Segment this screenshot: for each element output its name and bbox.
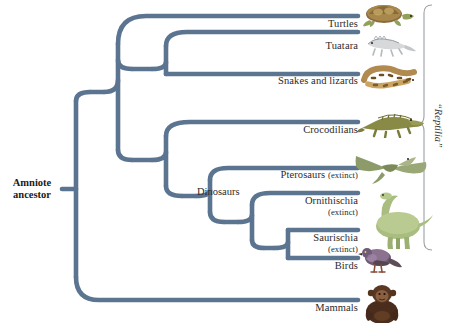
taxon-name-turtles: Turtles: [328, 18, 358, 29]
branch-reptilia-elbow: [104, 80, 118, 92]
taxon-name-crocodilians: Crocodilians: [303, 124, 358, 135]
pigeon-illustration: [356, 244, 404, 278]
root-label-line1: Amniote: [13, 177, 52, 188]
pterosaur-illustration: [352, 148, 430, 188]
snake-illustration: [358, 60, 420, 90]
taxon-name-saurischia: Saurischia: [313, 232, 358, 243]
taxon-name-pterosaurs: Pterosaurs: [281, 169, 326, 180]
figure-caption: [4, 314, 434, 323]
branch-archosaur-elbow: [152, 152, 166, 160]
tuatara-illustration: [360, 32, 418, 58]
taxon-name-mammals: Mammals: [315, 302, 358, 313]
taxon-extinct-note-ornithischia: (extinct): [198, 207, 358, 219]
crocodilian-illustration: [356, 106, 426, 138]
taxon-name-ornithischia: Ornithischia: [305, 195, 358, 206]
taxon-label-ornithischia: Ornithischia (extinct): [198, 195, 358, 218]
taxon-label-turtles: Turtles: [208, 18, 358, 30]
root-label: Amniote ancestor: [4, 177, 60, 200]
taxon-label-mammals: Mammals: [208, 302, 358, 314]
taxon-extinct-note-saurischia: (extinct): [198, 244, 358, 256]
taxon-label-saurischia: Saurischia (extinct): [198, 232, 358, 255]
sauropod-illustration: [352, 190, 434, 250]
taxon-label-snakes-and-lizards: Snakes and lizards: [188, 75, 358, 87]
turtle-illustration: [358, 2, 418, 30]
branch-archosaur-stem: [118, 150, 132, 160]
reptilia-bracket-label: “Reptilia”: [433, 91, 444, 161]
branch-reptile-stem: [76, 92, 90, 101]
branch-lepidosaur-stem: [118, 60, 132, 69]
branch-lepidosaur-elbow: [152, 62, 166, 69]
taxon-extinct-note-pterosaurs: (extinct): [328, 170, 358, 180]
taxon-name-snakes-and-lizards: Snakes and lizards: [278, 75, 358, 86]
root-label-line2: ancestor: [13, 189, 51, 200]
taxon-label-pterosaurs: Pterosaurs (extinct): [198, 169, 358, 182]
taxon-name-birds: Birds: [335, 260, 358, 271]
taxon-name-tuatara: Tuatara: [326, 40, 358, 51]
phylogenetic-tree-figure: Amniote ancestor Dinosaurs Turtles Tuata…: [0, 0, 463, 323]
taxon-label-birds: Birds: [208, 260, 358, 272]
branch-ornithodiran-stem: [166, 186, 182, 196]
taxon-label-tuatara: Tuatara: [208, 40, 358, 52]
taxon-label-crocodilians: Crocodilians: [208, 124, 358, 136]
branch-mammals: [76, 277, 358, 300]
